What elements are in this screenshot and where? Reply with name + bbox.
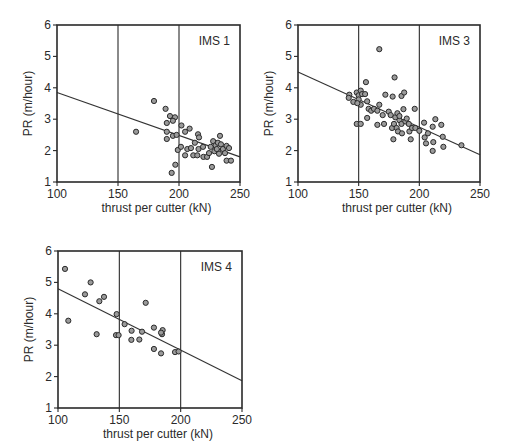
y-tick-label: 6 <box>44 18 51 32</box>
y-tick-label: 5 <box>285 49 292 63</box>
y-tick-label: 2 <box>44 144 51 158</box>
y-axis-title: PR (m/hour) <box>21 71 35 136</box>
data-point <box>363 80 368 85</box>
data-point <box>375 122 380 127</box>
data-point <box>158 330 163 335</box>
y-tick-label: 3 <box>44 112 51 126</box>
chart-panel-ims-1: 123456100150200250thrust per cutter (kN)… <box>21 18 250 215</box>
data-point <box>397 113 402 118</box>
y-tick-label: 3 <box>45 338 52 352</box>
y-tick-label: 2 <box>45 370 52 384</box>
data-point <box>133 129 138 134</box>
data-point <box>206 151 211 156</box>
data-point <box>196 135 201 140</box>
x-tick-label: 200 <box>169 187 189 201</box>
data-point <box>362 91 367 96</box>
data-point <box>408 137 413 142</box>
x-tick-label: 200 <box>409 187 429 201</box>
data-point <box>365 99 370 104</box>
data-point <box>66 318 71 323</box>
data-point <box>226 145 231 150</box>
data-point <box>158 351 163 356</box>
data-point <box>430 148 435 153</box>
x-tick-label: 150 <box>108 187 128 201</box>
data-point <box>365 115 370 120</box>
x-tick-label: 200 <box>171 413 191 427</box>
data-point <box>377 47 382 52</box>
chart-panel-ims-4: 123456100150200250thrust per cutter (kN)… <box>22 244 252 441</box>
data-point <box>94 332 99 337</box>
data-point <box>164 129 169 134</box>
data-point <box>139 329 144 334</box>
data-point <box>433 117 438 122</box>
plot-frame <box>298 25 480 182</box>
x-axis-title: thrust per cutter (kN) <box>101 201 211 215</box>
data-point <box>170 118 175 123</box>
data-point <box>399 131 404 136</box>
data-point <box>214 146 219 151</box>
figure: 123456100150200250thrust per cutter (kN)… <box>0 0 508 448</box>
data-point <box>88 280 93 285</box>
y-tick-label: 5 <box>45 275 52 289</box>
data-point <box>169 170 174 175</box>
data-point <box>209 164 214 169</box>
data-point <box>404 116 409 121</box>
x-tick-label: 150 <box>109 413 129 427</box>
data-point <box>390 94 395 99</box>
data-point <box>431 140 436 145</box>
data-point <box>97 299 102 304</box>
regression-line <box>58 289 242 381</box>
y-tick-label: 6 <box>285 18 292 32</box>
data-point <box>391 137 396 142</box>
y-tick-label: 2 <box>285 144 292 158</box>
data-point <box>383 92 388 97</box>
data-point <box>440 134 445 139</box>
data-point <box>178 144 183 149</box>
x-tick-label: 100 <box>288 187 308 201</box>
data-point <box>151 346 156 351</box>
data-point <box>151 98 156 103</box>
data-point <box>114 312 119 317</box>
data-point <box>164 136 169 141</box>
x-tick-label: 100 <box>48 413 68 427</box>
chart-panel-ims-3: 123456100150200250thrust per cutter (kN)… <box>262 18 490 215</box>
data-point <box>402 90 407 95</box>
data-point <box>116 333 121 338</box>
data-point <box>417 128 422 133</box>
x-axis-title: thrust per cutter (kN) <box>103 427 213 441</box>
data-point <box>401 107 406 112</box>
data-point <box>143 300 148 305</box>
data-point <box>129 328 134 333</box>
data-point <box>187 126 192 131</box>
data-point <box>82 292 87 297</box>
data-point <box>421 120 426 125</box>
data-point <box>176 349 181 354</box>
data-point <box>163 106 168 111</box>
y-axis-title: PR (m/hour) <box>22 297 36 362</box>
data-point <box>228 158 233 163</box>
x-tick-label: 150 <box>349 187 369 201</box>
plot-frame <box>57 25 240 182</box>
y-tick-label: 6 <box>45 244 52 258</box>
y-axis-title: PR (m/hour) <box>262 71 276 136</box>
data-point <box>459 143 464 148</box>
x-tick-label: 250 <box>470 187 490 201</box>
data-point <box>355 101 360 106</box>
data-point <box>358 121 363 126</box>
data-point <box>375 108 380 113</box>
panel-label: IMS 1 <box>199 34 231 48</box>
data-point <box>173 162 178 167</box>
y-tick-label: 5 <box>44 49 51 63</box>
x-tick-label: 250 <box>232 413 252 427</box>
data-point <box>122 322 127 327</box>
data-point <box>392 75 397 80</box>
x-tick-label: 250 <box>230 187 250 201</box>
panel-label: IMS 3 <box>439 34 471 48</box>
data-point <box>179 123 184 128</box>
x-axis-title: thrust per cutter (kN) <box>342 201 452 215</box>
data-point <box>183 153 188 158</box>
y-tick-label: 3 <box>285 112 292 126</box>
data-point <box>192 140 197 145</box>
y-tick-label: 4 <box>44 81 51 95</box>
data-point <box>222 151 227 156</box>
